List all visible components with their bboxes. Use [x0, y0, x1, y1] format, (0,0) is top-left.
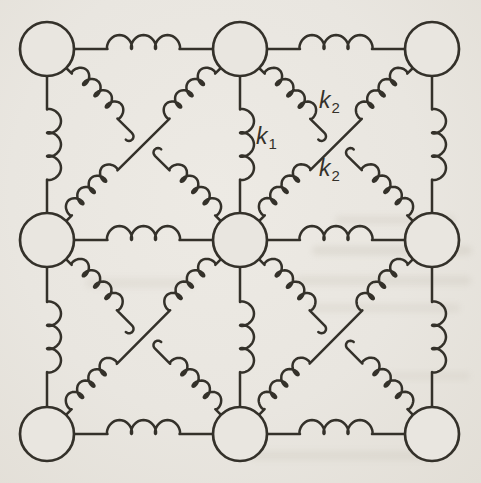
- spring-k2-diagonal-nwse-half: [346, 148, 413, 221]
- spring-k2-diagonal-nesw: [66, 259, 221, 415]
- spring-k1-vertical: [432, 76, 446, 213]
- label-k2-lower: k2: [319, 157, 340, 183]
- spring-k1-horizontal: [267, 35, 405, 49]
- spring-k2-diagonal-nwse-half: [259, 259, 326, 333]
- label-k1: k1: [256, 125, 277, 151]
- spring-k2-diagonal-nwse-half: [66, 68, 133, 141]
- spring-k1-horizontal: [74, 226, 213, 240]
- label-k1-base: k: [256, 123, 268, 149]
- spring-k1-horizontal: [74, 420, 213, 434]
- spring-k1-vertical: [240, 76, 254, 213]
- mass-node: [405, 407, 459, 461]
- mass-node: [213, 22, 267, 76]
- spring-k1-vertical: [240, 267, 254, 407]
- spring-k1-horizontal: [267, 226, 405, 240]
- mass-node: [20, 213, 74, 267]
- spring-k1-horizontal: [74, 35, 213, 49]
- spring-k1-vertical: [47, 267, 61, 407]
- mass-node: [20, 407, 74, 461]
- label-k1-sub: 1: [269, 135, 277, 152]
- label-k2-upper-base: k: [319, 87, 331, 113]
- spring-k2-diagonal-nwse-half: [66, 259, 134, 333]
- label-k2-upper: k2: [319, 89, 340, 115]
- label-k2-lower-sub: 2: [332, 167, 340, 184]
- spring-k1-horizontal: [267, 420, 405, 434]
- lattice-svg: [0, 0, 481, 483]
- spring-k2-diagonal-nwse-half: [154, 148, 222, 221]
- spring-k2-diagonal-nwse-half: [346, 341, 413, 415]
- spring-k1-vertical: [47, 76, 61, 213]
- label-k2-upper-sub: 2: [332, 99, 340, 116]
- spring-k2-diagonal-nwse-half: [154, 341, 222, 415]
- page: k1 k2 k2: [0, 0, 481, 483]
- mass-node: [213, 407, 267, 461]
- spring-k1-vertical: [432, 267, 446, 407]
- mass-node: [405, 213, 459, 267]
- mass-node: [213, 213, 267, 267]
- spring-k2-diagonal-nesw: [66, 68, 221, 221]
- label-k2-lower-base: k: [319, 155, 331, 181]
- mass-node: [20, 22, 74, 76]
- spring-k2-diagonal-nesw: [259, 259, 413, 415]
- mass-node: [405, 22, 459, 76]
